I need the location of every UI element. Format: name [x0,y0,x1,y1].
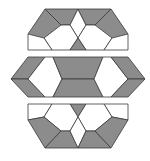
hexagon-tiling-diagram [0,0,150,161]
bottom-strip [28,104,128,148]
top-strip [28,9,128,50]
middle-strip [11,57,145,97]
